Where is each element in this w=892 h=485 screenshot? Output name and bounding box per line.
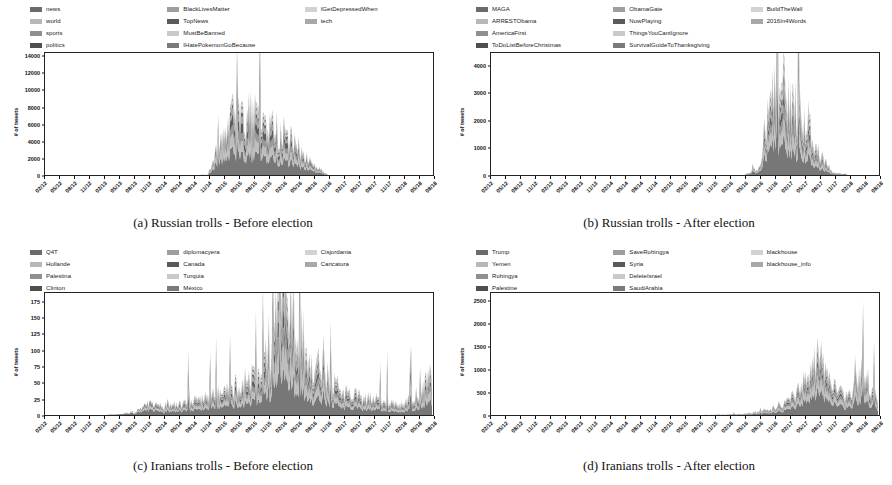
legend-item[interactable]: MAGA xyxy=(476,3,609,15)
legend-item[interactable]: Syria xyxy=(613,258,746,270)
x-tick-label: 08/18 xyxy=(424,420,438,434)
legend-item[interactable]: Hollande xyxy=(30,258,163,270)
area-series-panel-d xyxy=(491,293,879,415)
x-tick-label: 02/12 xyxy=(480,180,494,194)
legend-item[interactable]: SurvivalGuideToThanksgiving xyxy=(613,39,746,51)
x-tick-mark xyxy=(625,176,626,179)
x-tick-mark xyxy=(655,416,656,419)
legend-item[interactable]: Yemen xyxy=(476,258,609,270)
x-tick-label: 02/17 xyxy=(780,180,794,194)
legend-item[interactable]: Trump xyxy=(476,246,609,258)
x-tick-label: 11/13 xyxy=(585,420,599,434)
legend-swatch-icon xyxy=(30,7,42,12)
legend-swatch-icon xyxy=(751,262,763,267)
legend-swatch-icon xyxy=(613,286,625,291)
x-tick-label: 02/12 xyxy=(480,420,494,434)
x-tick-label: 11/16 xyxy=(765,420,779,434)
legend-swatch-icon xyxy=(167,7,179,12)
legend-item[interactable]: TopNews xyxy=(167,15,300,27)
legend-item[interactable]: Rohingya xyxy=(476,270,609,282)
legend-label: Syria xyxy=(629,258,643,270)
x-tick-mark xyxy=(209,176,210,179)
x-tick-label: 08/17 xyxy=(810,180,824,194)
legend-swatch-icon xyxy=(305,250,317,255)
x-tick-mark xyxy=(865,176,866,179)
legend-item[interactable]: world xyxy=(30,15,163,27)
x-tick-label: 02/16 xyxy=(274,180,288,194)
legend-item[interactable]: Cisjordania xyxy=(305,246,438,258)
x-tick-label: 02/17 xyxy=(334,180,348,194)
legend-swatch-icon xyxy=(30,262,42,267)
legend-item[interactable]: 2016In4Words xyxy=(751,15,884,27)
y-tick-label: 4000 xyxy=(28,139,40,145)
x-tick-mark xyxy=(404,176,405,179)
legend-swatch-icon xyxy=(613,19,625,24)
legend-swatch-icon xyxy=(476,250,488,255)
legend-item[interactable]: DeleteIsrael xyxy=(613,270,746,282)
x-tick-mark xyxy=(550,176,551,179)
x-tick-label: 02/15 xyxy=(214,420,228,434)
legend-item[interactable]: sports xyxy=(30,27,163,39)
legend-item[interactable]: IHatePokemonGoBecause xyxy=(167,39,300,51)
legend-item[interactable]: Q4T xyxy=(30,246,163,258)
x-tick-mark xyxy=(104,416,105,419)
y-axis-ticks: 05001000150020002500 xyxy=(456,292,488,416)
legend-item[interactable]: ARRESTObama xyxy=(476,15,609,27)
x-tick-mark xyxy=(269,176,270,179)
legend-item[interactable]: diplomacyera xyxy=(167,246,300,258)
legend-item[interactable]: news xyxy=(30,3,163,15)
legend-item[interactable]: tech xyxy=(305,15,438,27)
x-tick-label: 05/14 xyxy=(169,420,183,434)
x-tick-label: 08/18 xyxy=(870,420,884,434)
legend-item[interactable]: politics xyxy=(30,39,163,51)
legend-item[interactable]: NowPlaying xyxy=(613,15,746,27)
legend-swatch-icon xyxy=(30,31,42,36)
legend-item[interactable]: ThingsYouCantIgnore xyxy=(613,27,746,39)
legend-label: world xyxy=(46,15,61,27)
x-tick-label: 08/15 xyxy=(690,180,704,194)
x-tick-label: 11/14 xyxy=(199,180,213,194)
caption-panel-a: (a) Russian trolls - Before election xyxy=(0,215,446,231)
x-tick-label: 11/12 xyxy=(525,420,539,434)
x-tick-mark xyxy=(209,416,210,419)
x-tick-mark xyxy=(850,176,851,179)
legend-item[interactable]: BlackLivesMatter xyxy=(167,3,300,15)
x-tick-mark xyxy=(715,416,716,419)
axes-panel-d xyxy=(490,292,880,416)
x-tick-mark xyxy=(505,176,506,179)
x-tick-label: 05/12 xyxy=(49,180,63,194)
x-tick-mark xyxy=(89,176,90,179)
x-tick-label: 11/16 xyxy=(765,180,779,194)
x-tick-label: 08/14 xyxy=(184,420,198,434)
x-tick-mark xyxy=(565,416,566,419)
legend-item[interactable]: ObamaGate xyxy=(613,3,746,15)
legend-item[interactable]: AmericaFirst xyxy=(476,27,609,39)
x-tick-label: 11/16 xyxy=(319,420,333,434)
x-tick-label: 02/16 xyxy=(720,420,734,434)
x-tick-mark xyxy=(389,176,390,179)
legend-item[interactable]: Caricatura xyxy=(305,258,438,270)
y-tick-label: 8000 xyxy=(28,105,40,111)
x-tick-label: 02/14 xyxy=(154,420,168,434)
legend-item[interactable]: ToDoListBeforeChristmas xyxy=(476,39,609,51)
legend-item[interactable]: IGetDepressedWhen xyxy=(305,3,438,15)
y-tick-label: 12000 xyxy=(25,70,40,76)
legend-item[interactable]: SaveRohingya xyxy=(613,246,746,258)
legend-item[interactable]: Palestina xyxy=(30,270,163,282)
legend-item[interactable]: Canada xyxy=(167,258,300,270)
x-tick-mark xyxy=(44,416,45,419)
legend-item[interactable]: Turquia xyxy=(167,270,300,282)
legend-item[interactable]: MustBeBanned xyxy=(167,27,300,39)
y-tick-label: 50 xyxy=(34,380,40,386)
legend-item[interactable]: BuildTheWall xyxy=(751,3,884,15)
x-tick-mark xyxy=(284,176,285,179)
y-axis-ticks: 0255075100125150175 xyxy=(10,292,42,416)
legend-item[interactable]: blackhouse xyxy=(751,246,884,258)
x-tick-mark xyxy=(194,416,195,419)
legend-label: Turquia xyxy=(183,270,203,282)
legend-label: IGetDepressedWhen xyxy=(321,3,378,15)
legend-item[interactable]: blackhouse_info xyxy=(751,258,884,270)
x-tick-mark xyxy=(700,176,701,179)
x-tick-label: 02/15 xyxy=(660,420,674,434)
x-tick-mark xyxy=(74,416,75,419)
